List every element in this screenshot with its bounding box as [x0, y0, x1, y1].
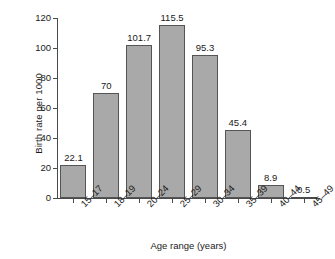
bar[interactable] — [126, 45, 152, 198]
y-tick-mark — [53, 198, 57, 199]
y-tick-mark — [53, 108, 57, 109]
bars-group: 22.170101.7115.595.345.48.90.5 — [57, 18, 320, 198]
y-tick-mark — [53, 138, 57, 139]
y-tick-label: 80 — [18, 73, 51, 83]
y-tick-label: 60 — [18, 103, 51, 113]
x-tick-label: 18–19 — [112, 202, 119, 209]
bar-value-label: 22.1 — [53, 153, 93, 163]
bar-value-label: 45.4 — [218, 118, 258, 128]
x-tick-label: 25–29 — [178, 202, 185, 209]
x-tick-label: 45–49 — [310, 202, 317, 209]
bar[interactable] — [93, 93, 119, 198]
bar-value-label: 115.5 — [152, 13, 192, 23]
bar[interactable] — [159, 25, 185, 198]
x-axis-title: Age range (years) — [57, 240, 320, 251]
x-tick-label: 40–44 — [277, 202, 284, 209]
y-tick-mark — [53, 48, 57, 49]
y-tick-label: 120 — [18, 13, 51, 23]
y-tick-mark — [53, 78, 57, 79]
y-tick-label: 0 — [18, 193, 51, 203]
plot-area: 22.170101.7115.595.345.48.90.5 — [57, 18, 320, 198]
bar-value-label: 101.7 — [119, 33, 159, 43]
x-axis-tick-labels: 15–1718–1920–2425–2930–3435–3940–4445–49 — [57, 202, 320, 242]
y-tick-mark — [53, 18, 57, 19]
y-tick-mark — [53, 168, 57, 169]
x-tick-label: 15–17 — [79, 202, 86, 209]
y-tick-label: 40 — [18, 133, 51, 143]
x-tick-label: 20–24 — [145, 202, 152, 209]
x-tick-label: 30–34 — [211, 202, 218, 209]
bar-value-label: 95.3 — [185, 43, 225, 53]
x-tick-label: 35–39 — [244, 202, 251, 209]
y-tick-label: 100 — [18, 43, 51, 53]
bar-value-label: 70 — [86, 81, 126, 91]
bar[interactable] — [60, 165, 86, 198]
y-tick-label: 20 — [18, 163, 51, 173]
y-axis-tick-labels: 020406080100120 — [18, 0, 51, 259]
bar-chart: Birth rate per 1000 020406080100120 22.1… — [0, 0, 335, 259]
bar[interactable] — [192, 55, 218, 198]
bar-value-label: 8.9 — [251, 173, 291, 183]
